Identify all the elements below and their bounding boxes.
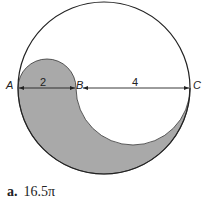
arrow-head-c bbox=[184, 86, 189, 90]
arrow-head-b-right bbox=[83, 86, 88, 90]
bc-length-label: 4 bbox=[132, 76, 138, 88]
answer-value: 16.5π bbox=[24, 184, 56, 199]
answer-letter: a. bbox=[7, 184, 18, 199]
yin-yang-diagram bbox=[0, 0, 209, 204]
point-a-label: A bbox=[6, 79, 13, 91]
point-b-label: B bbox=[76, 79, 83, 91]
ab-length-label: 2 bbox=[40, 76, 46, 88]
answer-option: a.16.5π bbox=[7, 184, 55, 200]
point-c-label: C bbox=[193, 79, 201, 91]
